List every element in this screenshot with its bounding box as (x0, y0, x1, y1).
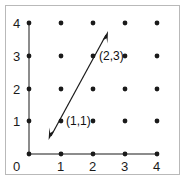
lattice-dots (27, 21, 160, 157)
lattice-dot (155, 119, 160, 124)
lattice-dot (155, 54, 160, 59)
lattice-dot (91, 21, 96, 26)
point-label-1-1: (1,1) (66, 115, 91, 127)
lattice-dot (155, 87, 160, 92)
lattice-dot (59, 54, 64, 59)
lattice-dot (59, 152, 64, 157)
lattice-dot (123, 152, 128, 157)
y-tick-label-2: 2 (13, 83, 20, 96)
lattice-dot (155, 21, 160, 26)
lattice-dot (27, 87, 32, 92)
y-tick-label-1: 1 (13, 115, 20, 128)
vector-arrowhead-up (102, 31, 108, 44)
lattice-dot (123, 87, 128, 92)
vector-arrowhead-down (49, 128, 55, 140)
lattice-dot (123, 119, 128, 124)
lattice-dot (27, 21, 32, 26)
lattice-vector-figure: 4 3 2 1 0 1 2 3 4 (1,1) (2,3) (0, 0, 187, 181)
point-label-2-3: (2,3) (99, 50, 124, 62)
origin-tick-label: 0 (13, 160, 20, 173)
lattice-dot (91, 87, 96, 92)
x-tick-label-1: 1 (57, 160, 64, 173)
lattice-dot (27, 152, 32, 157)
y-tick-label-3: 3 (13, 50, 20, 63)
lattice-dot (91, 119, 96, 124)
x-tick-label-4: 4 (153, 160, 160, 173)
lattice-dot (27, 119, 32, 124)
lattice-dot (59, 21, 64, 26)
lattice-dot (123, 21, 128, 26)
lattice-dot (155, 152, 160, 157)
y-tick-label-4: 4 (13, 17, 20, 30)
x-tick-label-3: 3 (121, 160, 128, 173)
plot-canvas (0, 0, 187, 181)
lattice-dot (27, 54, 32, 59)
lattice-dot (59, 87, 64, 92)
x-tick-label-2: 2 (89, 160, 96, 173)
lattice-dot (91, 152, 96, 157)
